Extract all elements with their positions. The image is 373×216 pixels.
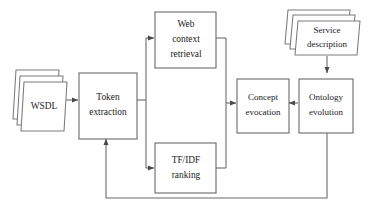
ontology-evolution-box — [299, 79, 353, 133]
node-wsdl[interactable]: WSDL — [13, 70, 67, 131]
service-description-label-line2: description — [307, 39, 347, 49]
node-token-extraction[interactable]: Token extraction — [79, 73, 137, 139]
node-ontology-evolution[interactable]: Ontology evolution — [299, 79, 353, 133]
concept-evocation-label-line1: Concept — [248, 92, 278, 102]
concept-evocation-label-line2: evocation — [246, 107, 281, 117]
web-context-retrieval-label-line1: Web — [178, 19, 195, 29]
web-context-retrieval-label-line3: retrieval — [170, 49, 202, 59]
node-concept-evocation[interactable]: Concept evocation — [237, 79, 289, 133]
flowchart-diagram: WSDL Token extraction Web context retrie… — [0, 0, 373, 216]
token-extraction-label-line2: extraction — [89, 107, 127, 117]
ontology-evolution-label-line2: evolution — [309, 107, 343, 117]
service-description-label-line1: Service — [314, 25, 341, 35]
node-tfidf-ranking[interactable]: TF/IDF ranking — [155, 143, 216, 193]
node-web-context-retrieval[interactable]: Web context retrieval — [155, 12, 216, 68]
token-extraction-label-line1: Token — [96, 92, 120, 102]
web-context-retrieval-label-line2: context — [172, 34, 200, 44]
node-service-description[interactable]: Service description — [285, 10, 360, 55]
tfidf-ranking-box — [155, 143, 216, 193]
diagram-canvas: WSDL Token extraction Web context retrie… — [0, 0, 373, 216]
token-extraction-box — [79, 73, 137, 139]
wsdl-label-line1: WSDL — [31, 101, 58, 111]
concept-evocation-box — [237, 79, 289, 133]
ontology-evolution-label-line1: Ontology — [309, 92, 344, 102]
tfidf-ranking-label-line1: TF/IDF — [172, 155, 201, 165]
tfidf-ranking-label-line2: ranking — [172, 170, 201, 180]
